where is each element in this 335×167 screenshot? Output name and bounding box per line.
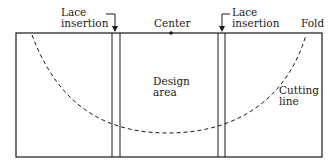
label-line: insertion — [232, 18, 279, 29]
center-dot — [169, 31, 173, 35]
design-area-label: Design area — [153, 76, 190, 98]
lace-right-arrowhead-icon — [219, 26, 225, 32]
lace-right-arrow-icon — [222, 14, 230, 28]
label-line: line — [279, 96, 319, 107]
label-line: area — [153, 87, 190, 98]
fold-label: Fold — [301, 18, 324, 29]
label-line: insertion — [61, 18, 108, 29]
lace-insertion-right-label: Lace insertion — [232, 7, 279, 29]
cutting-line-label: Cutting line — [279, 85, 319, 107]
center-label: Center — [154, 18, 190, 29]
lace-left-arrowhead-icon — [112, 26, 118, 32]
lace-insertion-left-label: Lace insertion — [61, 7, 108, 29]
